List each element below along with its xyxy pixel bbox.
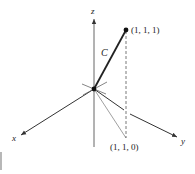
end-point-dot <box>124 28 129 33</box>
origin-point <box>92 87 97 92</box>
end-point-label: (1, 1, 1) <box>131 25 160 35</box>
y-axis-segment-1 <box>94 89 124 110</box>
y-axis-label: y <box>180 136 185 146</box>
x-axis-label: x <box>11 133 16 143</box>
y-axis <box>130 114 177 137</box>
projection-line <box>94 89 126 138</box>
diagram-canvas: z x y C (1, 1, 1) (1, 1, 0) <box>0 0 195 174</box>
curve-c <box>94 30 126 89</box>
curve-label: C <box>101 47 108 58</box>
z-axis-label: z <box>90 6 95 16</box>
x-axis <box>21 89 94 135</box>
projection-point-label: (1, 1, 0) <box>110 142 139 152</box>
diagram-svg: z x y C (1, 1, 1) (1, 1, 0) <box>0 0 195 174</box>
